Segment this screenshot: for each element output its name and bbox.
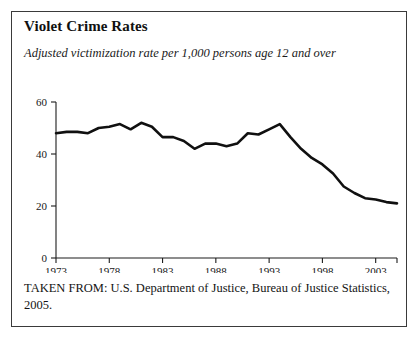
chart-plot-area: 0204060 1973197819831988199319982003 — [12, 68, 405, 273]
figure-subtitle: Adjusted victimization rate per 1,000 pe… — [24, 46, 336, 61]
y-axis-tick-label: 0 — [42, 252, 48, 264]
x-axis: 1973197819831988199319982003 — [45, 258, 397, 273]
y-axis-tick-label: 20 — [36, 200, 48, 212]
figure-container: Violet Crime Rates Adjusted victimizatio… — [11, 11, 407, 327]
figure-source-caption: TAKEN FROM: U.S. Department of Justice, … — [24, 280, 392, 313]
page-title: Violet Crime Rates — [24, 18, 148, 35]
x-axis-tick-label: 1978 — [98, 265, 121, 273]
x-axis-tick-label: 1998 — [311, 265, 334, 273]
y-axis-tick-label: 40 — [36, 148, 48, 160]
data-line-series — [56, 123, 397, 204]
x-axis-tick-label: 1983 — [152, 265, 175, 273]
data-series-group — [56, 123, 397, 204]
y-axis: 0204060 — [36, 96, 56, 264]
x-axis-tick-label: 1988 — [205, 265, 228, 273]
y-axis-tick-label: 60 — [36, 96, 48, 108]
x-axis-tick-label: 2003 — [365, 265, 388, 273]
x-axis-tick-label: 1993 — [258, 265, 281, 273]
line-chart-svg: 0204060 1973197819831988199319982003 — [12, 68, 405, 273]
x-axis-tick-label: 1973 — [45, 265, 68, 273]
